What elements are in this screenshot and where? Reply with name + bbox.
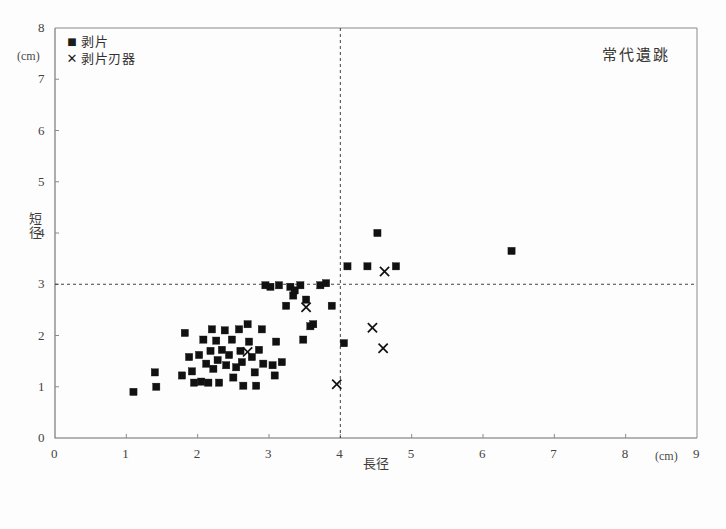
data-point-square	[186, 353, 193, 360]
data-point-square	[283, 302, 290, 309]
data-point-square	[178, 372, 185, 379]
data-point-square	[215, 379, 222, 386]
data-point-square	[322, 280, 329, 287]
data-point-cross	[301, 303, 310, 312]
data-point-square	[255, 346, 262, 353]
legend: ■ 剥片 ✕ 剥片刃器	[66, 33, 176, 67]
data-point-square	[210, 365, 217, 372]
y-tick-label: 1	[38, 380, 45, 393]
data-point-square	[218, 346, 225, 353]
data-point-square	[269, 362, 276, 369]
data-point-square	[225, 351, 232, 358]
x-tick-label: 7	[550, 447, 557, 460]
data-point-square	[260, 360, 267, 367]
data-points	[130, 229, 515, 395]
data-point-square	[328, 302, 335, 309]
data-point-square	[153, 383, 160, 390]
y-tick-label: 2	[38, 329, 45, 342]
x-tick-label: 5	[408, 447, 415, 460]
x-tick-label: 0	[51, 447, 58, 460]
x-tick-label: 2	[194, 447, 201, 460]
data-point-cross	[368, 323, 377, 332]
legend-item-flake-blade: ✕ 剥片刃器	[66, 50, 176, 67]
chart-title: 常代遺跳	[602, 48, 670, 63]
cross-marker-icon: ✕	[66, 52, 78, 65]
data-point-square	[198, 378, 205, 385]
x-tick-label: 9	[693, 447, 700, 460]
data-point-square	[297, 282, 304, 289]
data-point-square	[508, 247, 515, 254]
data-point-cross	[380, 267, 389, 276]
square-marker-icon: ■	[66, 37, 78, 47]
data-point-square	[207, 347, 214, 354]
x-axis-title: 長径	[363, 457, 389, 470]
data-point-cross	[379, 344, 388, 353]
data-point-cross	[243, 347, 252, 356]
data-point-square	[374, 229, 381, 236]
x-tick-label: 8	[622, 447, 629, 460]
data-point-square	[271, 372, 278, 379]
data-point-square	[258, 326, 265, 333]
data-point-square	[181, 329, 188, 336]
x-axis-unit: (cm)	[655, 450, 678, 462]
data-point-square	[340, 340, 347, 347]
data-point-square	[235, 326, 242, 333]
x-tick-label: 6	[479, 447, 486, 460]
data-point-square	[188, 368, 195, 375]
y-tick-label: 5	[38, 175, 45, 188]
y-axis-unit: (cm)	[17, 50, 40, 62]
data-point-square	[251, 369, 258, 376]
data-point-square	[273, 338, 280, 345]
y-tick-label: 3	[38, 277, 45, 290]
scatter-chart: ■ 剥片 ✕ 剥片刃器 常代遺跳 (cm) (cm) 短径 長径 0123456…	[0, 0, 726, 529]
data-point-square	[244, 321, 251, 328]
data-point-square	[253, 382, 260, 389]
data-point-square	[392, 263, 399, 270]
data-point-square	[238, 359, 245, 366]
data-point-square	[240, 382, 247, 389]
data-point-square	[205, 379, 212, 386]
data-point-square	[245, 338, 252, 345]
data-point-square	[300, 336, 307, 343]
data-point-square	[267, 283, 274, 290]
data-point-square	[275, 282, 282, 289]
x-tick-label: 1	[122, 447, 129, 460]
data-point-square	[195, 351, 202, 358]
data-point-square	[203, 360, 210, 367]
y-tick-label: 8	[38, 21, 45, 34]
data-point-square	[214, 357, 221, 364]
y-tick-label: 4	[38, 226, 45, 239]
x-tick-label: 3	[265, 447, 272, 460]
data-point-square	[344, 263, 351, 270]
data-point-square	[221, 327, 228, 334]
data-point-square	[208, 326, 215, 333]
data-point-square	[310, 321, 317, 328]
data-point-square	[151, 369, 158, 376]
data-point-square	[191, 379, 198, 386]
y-tick-label: 6	[38, 124, 45, 137]
x-tick-label: 4	[336, 447, 343, 460]
data-point-square	[228, 336, 235, 343]
legend-label-flake-blade: 剥片刃器	[81, 52, 135, 65]
y-tick-label: 7	[38, 72, 45, 85]
data-point-square	[223, 362, 230, 369]
legend-label-flake: 剥片	[81, 35, 108, 48]
plot-canvas	[0, 0, 726, 529]
data-point-square	[364, 263, 371, 270]
data-point-square	[278, 359, 285, 366]
data-point-square	[130, 388, 137, 395]
legend-item-flake: ■ 剥片	[66, 33, 176, 50]
data-point-square	[213, 337, 220, 344]
data-point-square	[302, 296, 309, 303]
y-tick-label: 0	[38, 431, 45, 444]
data-point-square	[230, 374, 237, 381]
data-point-square	[200, 336, 207, 343]
